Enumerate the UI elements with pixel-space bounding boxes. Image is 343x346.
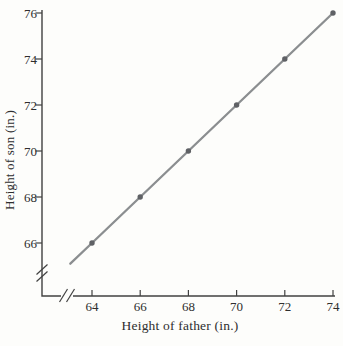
x-tick-label: 64: [86, 299, 100, 314]
data-point-marker: [282, 56, 287, 61]
y-tick-label: 66: [24, 236, 38, 251]
x-tick-label: 66: [134, 299, 148, 314]
data-point-marker: [89, 240, 94, 245]
x-axis-title: Height of father (in.): [30, 318, 330, 334]
y-tick-label: 74: [24, 52, 38, 67]
data-point-marker: [186, 148, 191, 153]
data-point-marker: [138, 194, 143, 199]
line-chart: 666870727476646668707274 Height of son (…: [0, 0, 343, 346]
y-tick-label: 70: [24, 144, 37, 159]
x-tick-label: 72: [278, 299, 291, 314]
y-axis-title: Height of son (in.): [2, 110, 18, 210]
data-point-marker: [330, 10, 335, 15]
data-point-marker: [234, 102, 239, 107]
x-tick-label: 68: [182, 299, 195, 314]
x-tick-label: 74: [327, 299, 341, 314]
y-tick-label: 72: [24, 98, 37, 113]
y-tick-label: 76: [24, 6, 38, 21]
chart-canvas: 666870727476646668707274: [0, 0, 343, 346]
y-tick-label: 68: [24, 190, 37, 205]
plot-line: [70, 13, 333, 264]
x-tick-label: 70: [230, 299, 243, 314]
